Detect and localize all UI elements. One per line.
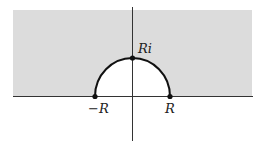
point-neg-r: [92, 94, 97, 99]
point-pos-r: [167, 94, 172, 99]
label-pos-r: R: [164, 101, 175, 116]
point-ri: [130, 55, 135, 60]
label-neg-r: −R: [88, 101, 109, 116]
complex-plane-diagram: −R R Ri: [0, 0, 264, 147]
label-ri: Ri: [137, 41, 152, 56]
